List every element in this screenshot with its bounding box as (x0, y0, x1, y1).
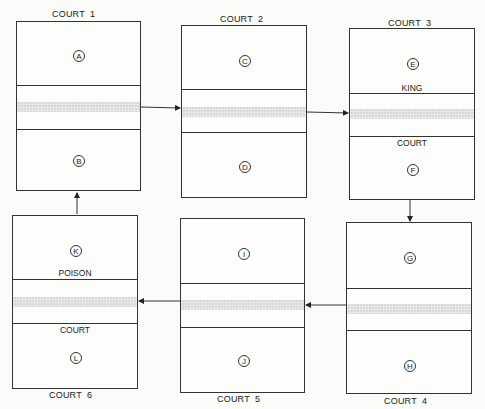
rotation-arrows (0, 0, 485, 409)
arrow-court1-to-court2 (141, 107, 180, 108)
arrow-court2-to-court3 (307, 112, 348, 113)
